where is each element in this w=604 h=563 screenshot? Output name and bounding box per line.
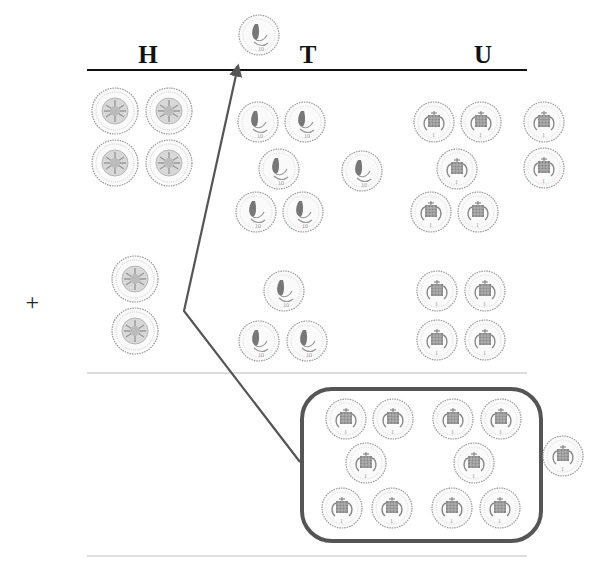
pound-coin-icon xyxy=(146,140,192,186)
ten-pence-coin-icon xyxy=(236,192,276,232)
one-penny-coin-icon xyxy=(433,399,473,439)
one-penny-coin-icon xyxy=(372,488,412,528)
one-penny-coin-icon xyxy=(481,399,521,439)
one-penny-coin-icon xyxy=(322,488,362,528)
ten-pence-coin-icon xyxy=(283,192,323,232)
ten-pence-coin-icon xyxy=(264,271,304,311)
one-penny-coin-icon xyxy=(454,443,494,483)
one-penny-coin-icon xyxy=(417,271,457,311)
one-penny-coin-icon xyxy=(458,192,498,232)
pound-coin-icon xyxy=(92,88,138,134)
one-penny-coin-icon xyxy=(411,192,451,232)
ten-pence-coin-icon xyxy=(287,321,327,361)
one-penny-coin-icon xyxy=(461,102,501,142)
ten-pence-coin-icon xyxy=(259,149,299,189)
diagram-canvas: 10 1 xyxy=(0,0,604,563)
one-penny-coin-icon xyxy=(524,148,564,188)
ten-pence-coin-icon xyxy=(239,321,279,361)
one-penny-coin-icon xyxy=(414,102,454,142)
place-value-diagram: H T U + 10 xyxy=(0,0,604,563)
one-penny-coin-icon xyxy=(543,436,583,476)
one-penny-coin-icon xyxy=(465,271,505,311)
one-penny-coin-icon xyxy=(326,399,366,439)
pound-coin-icon xyxy=(112,308,158,354)
one-penny-coin-icon xyxy=(437,149,477,189)
one-penny-coin-icon xyxy=(432,488,472,528)
ten-pence-coin-icon xyxy=(238,102,278,142)
pound-coin-icon xyxy=(112,256,158,302)
carried-ten-pence-coin-icon xyxy=(239,15,279,55)
ten-pence-coin-icon xyxy=(342,151,382,191)
one-penny-coin-icon xyxy=(373,399,413,439)
pound-coin-icon xyxy=(146,88,192,134)
pound-coin-icon xyxy=(92,140,138,186)
one-penny-coin-icon xyxy=(417,320,457,360)
one-penny-coin-icon xyxy=(346,443,386,483)
one-penny-coin-icon xyxy=(524,102,564,142)
ten-pence-coin-icon xyxy=(285,102,325,142)
one-penny-coin-icon xyxy=(480,488,520,528)
coins-layer xyxy=(92,15,583,528)
one-penny-coin-icon xyxy=(465,320,505,360)
